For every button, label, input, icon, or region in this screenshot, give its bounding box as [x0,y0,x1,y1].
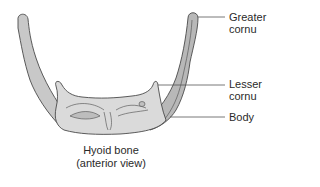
label-greater-cornu: Greater cornu [229,11,266,35]
caption-subtitle: (anterior view) [61,157,161,170]
label-body: Body [229,111,254,123]
label-greater-cornu-line1: Greater [229,11,266,23]
label-lesser-cornu-line1: Lesser [229,78,262,90]
label-greater-cornu-line2: cornu [229,23,266,35]
figure-caption: Hyoid bone (anterior view) [61,144,161,170]
label-lesser-cornu: Lesser cornu [229,78,262,102]
hyoid-body [55,81,166,134]
label-body-line1: Body [229,111,254,123]
label-lesser-cornu-line2: cornu [229,90,262,102]
caption-title: Hyoid bone [61,144,161,157]
